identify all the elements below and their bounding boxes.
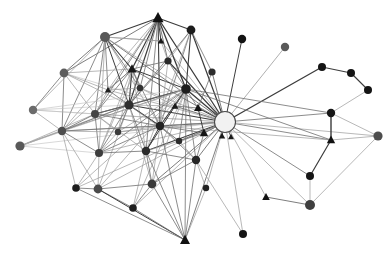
graph-node-circle[interactable] [327, 109, 335, 117]
graph-node-circle[interactable] [142, 147, 150, 155]
graph-node-circle[interactable] [100, 32, 110, 42]
graph-node-circle[interactable] [306, 172, 314, 180]
graph-node-circle[interactable] [192, 156, 200, 164]
graph-node-circle[interactable] [115, 129, 121, 135]
graph-node-circle[interactable] [181, 84, 191, 94]
network-graph-svg [0, 0, 391, 257]
graph-node-circle[interactable] [58, 127, 66, 135]
graph-node-circle[interactable] [94, 185, 103, 194]
graph-node-circle[interactable] [148, 180, 157, 189]
network-graph-canvas [0, 0, 391, 257]
graph-node-circle[interactable] [29, 106, 37, 114]
graph-node-circle[interactable] [91, 110, 99, 118]
graph-node-circle[interactable] [238, 35, 246, 43]
graph-node-circle[interactable] [239, 230, 247, 238]
graph-node-circle[interactable] [95, 149, 103, 157]
graph-node-circle[interactable] [203, 185, 209, 191]
graph-node-circle[interactable] [281, 43, 289, 51]
graph-node-circle[interactable] [318, 63, 326, 71]
graph-node-circle[interactable] [208, 68, 215, 75]
graph-node-circle[interactable] [364, 86, 372, 94]
graph-node-circle[interactable] [15, 141, 24, 150]
graph-node-circle[interactable] [156, 122, 164, 130]
graph-node-circle[interactable] [187, 26, 196, 35]
graph-node-circle[interactable] [305, 200, 315, 210]
graph-node-circle[interactable] [124, 100, 133, 109]
graph-node-circle[interactable] [347, 69, 355, 77]
graph-node-circle[interactable] [72, 184, 80, 192]
graph-node-circle[interactable] [176, 138, 182, 144]
graph-node-circle[interactable] [60, 69, 69, 78]
graph-node-circle[interactable] [137, 85, 143, 91]
graph-node-circle[interactable] [129, 204, 137, 212]
graph-node-circle[interactable] [215, 112, 236, 133]
graph-node-circle[interactable] [373, 131, 382, 140]
graph-node-circle[interactable] [164, 57, 171, 64]
